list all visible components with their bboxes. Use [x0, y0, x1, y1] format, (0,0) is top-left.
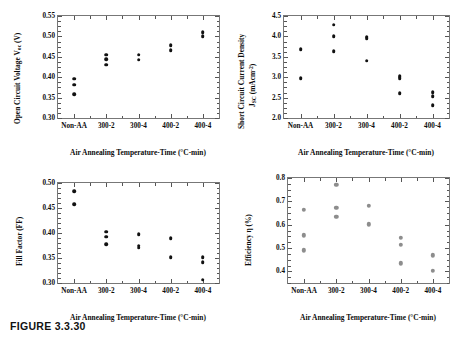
figure-caption: FIGURE 3.3.30	[10, 320, 86, 332]
jsc-y-tick-major	[284, 98, 288, 99]
jsc-y-tick-major	[284, 57, 288, 58]
voc-data-point	[169, 48, 173, 52]
ff-y-tick-minor	[58, 203, 61, 204]
jsc-x-tick-minor	[350, 116, 351, 119]
ff-y-tick-minor	[217, 188, 220, 189]
jsc-y-tick-minor	[447, 108, 450, 109]
eff-y-tick-minor	[288, 242, 291, 243]
jsc-y-tick-minor	[447, 21, 450, 22]
voc-plot-area: 0.550.500.450.400.350.30Non-AA300-2300-4…	[57, 15, 220, 119]
jsc-y-tick-minor	[284, 21, 287, 22]
voc-y-tick-label: 0.55	[42, 12, 55, 20]
eff-x-tick	[401, 279, 402, 283]
voc-y-tick-major	[215, 77, 219, 78]
ff-y-tick-minor	[58, 268, 61, 269]
ff-x-tick-minor	[122, 281, 123, 284]
eff-x-tick	[336, 178, 337, 182]
voc-y-axis-title-main: Open Circuit Voltage V	[13, 50, 22, 124]
ff-y-tick-label: 0.40	[42, 229, 55, 237]
eff-y-tick-minor	[447, 219, 450, 220]
ff-y-tick-major	[215, 258, 219, 259]
jsc-y-tick-minor	[447, 87, 450, 88]
jsc-x-tick-minor	[317, 16, 318, 19]
ff-x-tick	[106, 183, 107, 187]
voc-data-point	[169, 44, 173, 48]
jsc-y-tick-major	[445, 57, 449, 58]
efficiency-y-axis-title: Efficiency η (%)	[245, 214, 252, 266]
chart-panel-efficiency: Efficiency η (%) 0.80.70.60.50.4Non-AA30…	[230, 168, 460, 330]
ff-y-tick-minor	[217, 248, 220, 249]
jsc-y-tick-minor	[447, 52, 450, 53]
eff-x-tick-minor	[417, 178, 418, 181]
jsc-y-tick-minor	[447, 42, 450, 43]
ff-y-tick-major	[215, 183, 219, 184]
ff-y-tick-minor	[58, 253, 61, 254]
eff-x-tick-minor	[320, 178, 321, 181]
ff-x-tick-minor	[155, 281, 156, 284]
eff-data-point	[302, 248, 306, 252]
ff-x-category-label: 400-2	[162, 287, 179, 295]
chart-panel-voc: Open Circuit Voltage Voc (V) 0.550.500.4…	[0, 2, 230, 164]
jsc-y-tick-major	[284, 36, 288, 37]
jsc-x-tick	[400, 16, 401, 20]
voc-y-tick-label: 0.30	[42, 114, 55, 122]
voc-y-tick-minor	[217, 42, 220, 43]
eff-data-point	[302, 207, 306, 211]
ff-y-tick-minor	[217, 223, 220, 224]
voc-y-tick-minor	[58, 31, 61, 32]
jsc-y-tick-minor	[284, 42, 287, 43]
jsc-y-tick-minor	[447, 103, 450, 104]
voc-x-category-label: 300-2	[98, 122, 115, 130]
voc-data-point	[105, 53, 109, 57]
voc-y-tick-major	[58, 16, 62, 17]
voc-y-tick-minor	[58, 82, 61, 83]
jsc-y-tick-minor	[447, 26, 450, 27]
ff-y-tick-major	[215, 283, 219, 284]
jsc-y-tick-minor	[447, 62, 450, 63]
eff-data-point	[398, 243, 402, 247]
eff-x-tick	[369, 178, 370, 182]
jsc-y-axis-title-line2: JSC (mAcm-2)	[249, 64, 258, 107]
jsc-y-tick-label: 2.5	[272, 94, 281, 102]
jsc-data-point	[398, 91, 402, 95]
voc-x-tick-minor	[155, 16, 156, 19]
jsc-x-tick-minor	[416, 116, 417, 119]
voc-y-tick-minor	[217, 31, 220, 32]
voc-data-point	[105, 63, 109, 67]
jsc-x-tick-minor	[383, 116, 384, 119]
ff-y-tick-minor	[217, 198, 220, 199]
figure-container: Open Circuit Voltage Voc (V) 0.550.500.4…	[0, 0, 460, 341]
jsc-x-tick	[433, 16, 434, 20]
jsc-y-tick-major	[284, 16, 288, 17]
eff-x-category-label: 300-4	[360, 287, 377, 295]
chart-panel-ff: Fill Factor (FF) 0.500.450.400.350.30Non…	[0, 168, 230, 330]
jsc-x-tick	[301, 16, 302, 20]
ff-y-tick-minor	[217, 213, 220, 214]
jsc-y-tick-major	[445, 36, 449, 37]
voc-y-tick-minor	[58, 108, 61, 109]
voc-y-tick-minor	[58, 52, 61, 53]
voc-y-tick-label: 0.45	[42, 53, 55, 61]
eff-data-point	[366, 204, 370, 208]
eff-data-point	[334, 206, 338, 210]
voc-y-tick-minor	[58, 42, 61, 43]
ff-y-tick-label: 0.50	[42, 179, 55, 187]
eff-x-tick-minor	[385, 178, 386, 181]
ff-y-tick-minor	[217, 273, 220, 274]
ff-y-tick-minor	[58, 278, 61, 279]
eff-y-tick-label: 0.7	[276, 197, 285, 205]
voc-y-tick-major	[215, 57, 219, 58]
eff-y-tick-major	[288, 225, 292, 226]
efficiency-plot-area: 0.80.70.60.50.4Non-AA300-2300-4400-2400-…	[287, 177, 450, 284]
jsc-x-tick	[367, 114, 368, 118]
jsc-data-point	[398, 77, 402, 81]
jsc-x-axis-title: Air Annealing Temperature-Time (°C-min)	[298, 148, 434, 157]
jsc-y-tick-minor	[447, 113, 450, 114]
ff-data-point	[201, 260, 205, 264]
jsc-x-tick	[433, 114, 434, 118]
jsc-y-tick-minor	[284, 62, 287, 63]
jsc-x-tick	[334, 114, 335, 118]
jsc-y-tick-minor	[447, 67, 450, 68]
eff-data-point	[334, 215, 338, 219]
ff-x-tick-minor	[187, 281, 188, 284]
